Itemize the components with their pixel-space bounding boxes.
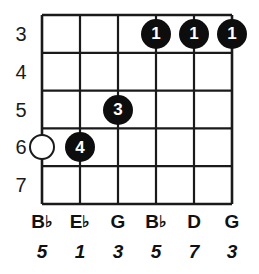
note-name-label: E♭ (60, 212, 100, 231)
note-letter: G (111, 211, 126, 232)
flat-symbol-icon: ♭ (159, 213, 167, 230)
finger-dot: 1 (217, 19, 247, 49)
note-name-label: B♭ (136, 212, 176, 231)
note-letter: B (145, 211, 159, 232)
interval-label: 7 (174, 242, 214, 261)
finger-dot: 1 (141, 19, 171, 49)
interval-label: 5 (22, 242, 62, 261)
note-name-label: D (174, 212, 214, 231)
interval-label: 1 (60, 242, 100, 261)
note-letter: B (31, 211, 45, 232)
note-name-label: G (212, 212, 252, 231)
finger-dot: 3 (103, 95, 133, 125)
note-letter: D (187, 211, 201, 232)
fret-number: 5 (6, 100, 36, 120)
note-letter: E (70, 211, 83, 232)
fret-number: 7 (6, 175, 36, 195)
fret-number: 4 (6, 62, 36, 82)
interval-label: 3 (212, 242, 252, 261)
fret-number: 3 (6, 24, 36, 44)
note-letter: G (225, 211, 240, 232)
flat-symbol-icon: ♭ (82, 213, 90, 230)
interval-label: 3 (98, 242, 138, 261)
note-name-label: G (98, 212, 138, 231)
note-name-label: B♭ (22, 212, 62, 231)
finger-dot: 1 (179, 19, 209, 49)
interval-label: 5 (136, 242, 176, 261)
chord-diagram: 34567 11134 B♭E♭GB♭DG 513573 (0, 0, 259, 274)
flat-symbol-icon: ♭ (45, 213, 53, 230)
